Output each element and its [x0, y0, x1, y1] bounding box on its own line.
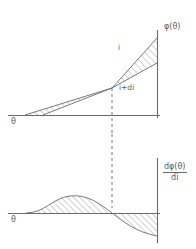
bottom-plot-y-axis-label-denominator: di: [163, 173, 187, 182]
top-plot-curve-i-label: i: [118, 44, 120, 52]
top-plot-curve-i-plus-di-label: i+di: [119, 84, 134, 92]
figure-container: φ(θ) θ i i+di dφ(θ) di θ: [0, 0, 196, 249]
bottom-plot-group: [8, 158, 162, 243]
top-plot-curve-i: [43, 38, 157, 115]
bottom-plot-x-axis-label: θ: [11, 216, 16, 224]
bottom-plot-y-axis-label: dφ(θ) di: [163, 163, 187, 183]
top-plot-y-axis-label: φ(θ): [164, 23, 180, 31]
bottom-plot-y-axis-label-numerator: dφ(θ): [163, 163, 187, 173]
top-plot-left-hatched-wedge: [20, 80, 120, 125]
figure-canvas: [0, 0, 196, 249]
top-plot-group: [8, 30, 165, 134]
top-plot-x-axis-label: θ: [11, 118, 16, 126]
